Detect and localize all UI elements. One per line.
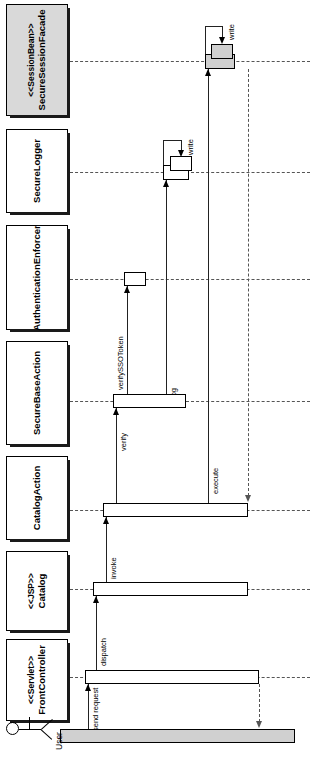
arrowhead-return-catalogaction xyxy=(245,495,251,502)
selfcall-left-segment xyxy=(205,26,206,54)
arrowhead-verifyssotoken xyxy=(124,286,130,293)
message-line xyxy=(127,286,128,394)
arrowhead-invoke xyxy=(103,517,109,524)
return-line-securesessionfacade-to-catalogaction xyxy=(248,69,249,496)
actor-user[interactable]: User xyxy=(4,700,64,758)
box-shadow-side xyxy=(67,133,70,215)
participant-name-catalog: Catalog xyxy=(36,573,47,609)
box-shadow xyxy=(10,212,70,215)
message-line xyxy=(106,517,107,582)
activation-bar-catalog xyxy=(93,582,248,596)
arrowhead-dispatch xyxy=(93,596,99,603)
selfcall-top-segment xyxy=(163,140,181,141)
message-label-execute: execute xyxy=(211,468,220,494)
activation-bar-user xyxy=(60,729,295,743)
message-label-write-securelogger: write xyxy=(186,139,195,155)
box-shadow xyxy=(10,539,70,542)
message-line xyxy=(88,684,89,732)
participant-name-securebaseaction: SecureBaseAction xyxy=(32,351,43,435)
actor-arm-icon xyxy=(29,717,30,729)
activation-bar-securelogger-nested xyxy=(170,156,192,171)
message-line xyxy=(166,180,167,394)
box-shadow-side xyxy=(67,555,70,633)
activation-bar-authenticationenforcer xyxy=(124,272,146,286)
arrowhead-send-request xyxy=(85,684,91,691)
lifeline-securesessionfacade xyxy=(70,61,310,62)
message-label-verify: verify xyxy=(119,433,128,451)
lifeline-securebaseaction xyxy=(70,401,310,402)
actor-body-icon xyxy=(19,729,41,730)
activation-bar-securesessionfacade-nested xyxy=(211,44,233,59)
lifeline-authenticationenforcer xyxy=(70,279,310,280)
box-shadow-side xyxy=(67,8,70,118)
participant-box-catalog[interactable]: <<JSP>> Catalog xyxy=(6,551,68,631)
box-shadow-side xyxy=(67,460,70,542)
arrowhead-return-user xyxy=(256,721,262,728)
activation-bar-catalogaction xyxy=(103,503,248,517)
participant-box-securebaseaction[interactable]: SecureBaseAction xyxy=(6,341,68,445)
message-label-dispatch: dispatch xyxy=(99,638,108,666)
participant-box-securesessionfacade[interactable]: <<SessionBean>> SecureSessionFacade xyxy=(6,4,68,116)
activation-bar-securebaseaction xyxy=(113,394,186,408)
selfcall-left-segment xyxy=(163,140,164,165)
message-label-write-securesessionfacade: write xyxy=(227,24,236,40)
participant-box-authenticationenforcer[interactable]: AuthenticationEnforcer xyxy=(6,225,68,330)
message-line xyxy=(116,408,117,503)
participant-box-securelogger[interactable]: SecureLogger xyxy=(6,129,68,213)
box-shadow xyxy=(10,115,70,118)
participant-name-authenticationenforcer: AuthenticationEnforcer xyxy=(32,225,43,331)
message-label-verifyssotoken: verifySSOToken xyxy=(116,336,125,390)
participant-name-securelogger: SecureLogger xyxy=(32,139,43,203)
sequence-diagram-canvas: <<SessionBean>> SecureSessionFacade Secu… xyxy=(0,0,310,762)
arrowhead-write-securesessionfacade xyxy=(219,37,225,44)
participant-name-catalogaction: CatalogAction xyxy=(32,466,43,530)
box-shadow-side xyxy=(67,643,70,723)
box-shadow-side xyxy=(67,345,70,447)
message-label-invoke: invoke xyxy=(109,557,118,579)
message-label-send-request: send request xyxy=(91,688,100,731)
actor-leg-icon-2 xyxy=(41,719,53,730)
message-line xyxy=(208,69,209,503)
actor-leg-icon xyxy=(40,729,52,740)
box-shadow xyxy=(10,630,70,633)
participant-name-securesessionfacade: SecureSessionFacade xyxy=(36,10,47,111)
actor-head-icon xyxy=(6,722,19,735)
message-line xyxy=(96,596,97,670)
selfcall-top-segment xyxy=(205,26,222,27)
return-line-frontcontroller-to-user xyxy=(259,684,260,722)
box-shadow xyxy=(10,444,70,447)
box-shadow-side xyxy=(67,229,70,332)
arrowhead-verify xyxy=(113,408,119,415)
arrowhead-execute xyxy=(205,69,211,76)
participant-box-catalogaction[interactable]: CatalogAction xyxy=(6,456,68,540)
activation-bar-frontcontroller xyxy=(85,670,259,684)
arrowhead-log xyxy=(163,180,169,187)
arrowhead-write-securelogger xyxy=(178,150,184,157)
actor-label-user: User xyxy=(54,732,64,750)
lifeline-securelogger xyxy=(70,172,310,173)
